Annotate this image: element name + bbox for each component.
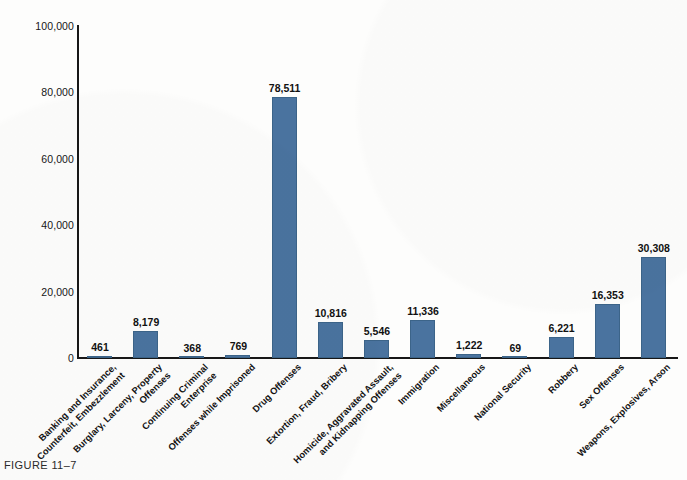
y-axis-tick-label: 20,000 bbox=[4, 286, 74, 298]
y-axis-labels: 020,00040,00060,00080,000100,000 bbox=[0, 0, 74, 480]
bar[interactable] bbox=[179, 356, 204, 358]
bar-value-label: 69 bbox=[485, 342, 545, 354]
plot-area: 4618,17936876978,51110,8165,54611,3361,2… bbox=[78, 26, 678, 358]
bar[interactable] bbox=[225, 355, 250, 358]
bar-slot: 8,179 bbox=[124, 26, 167, 358]
x-axis-category-label: Sex Offenses bbox=[577, 362, 627, 412]
bar-slot: 1,222 bbox=[447, 26, 490, 358]
bar-slot: 769 bbox=[216, 26, 259, 358]
bar[interactable] bbox=[641, 257, 666, 358]
bar[interactable] bbox=[272, 97, 297, 358]
x-axis-category-label: Robbery bbox=[546, 362, 581, 397]
bar-value-label: 11,336 bbox=[393, 305, 453, 317]
x-axis-category-label: Immigration bbox=[397, 362, 443, 408]
bar-value-label: 461 bbox=[70, 341, 130, 353]
x-axis-category-label: Weapons, Explosives, Arson bbox=[575, 362, 673, 460]
bar-slot: 16,353 bbox=[586, 26, 629, 358]
bar[interactable] bbox=[456, 354, 481, 358]
bar-value-label: 6,221 bbox=[532, 322, 592, 334]
y-axis-tick-label: 40,000 bbox=[4, 219, 74, 231]
bar[interactable] bbox=[410, 320, 435, 358]
x-axis-label-line: Robbery bbox=[546, 362, 581, 397]
bar-value-label: 16,353 bbox=[578, 289, 638, 301]
x-axis-category-label: Homicide, Aggravated Assault,and Kidnapp… bbox=[292, 362, 405, 475]
bar-value-label: 769 bbox=[208, 340, 268, 352]
figure-container: 020,00040,00060,00080,000100,000 4618,17… bbox=[0, 0, 687, 480]
x-axis-label-line: Weapons, Explosives, Arson bbox=[575, 362, 673, 460]
bar-value-label: 8,179 bbox=[116, 316, 176, 328]
bar-value-label: 5,546 bbox=[347, 325, 407, 337]
bar[interactable] bbox=[502, 356, 527, 358]
figure-caption: FIGURE 11–7 bbox=[4, 459, 77, 471]
bar-slot: 461 bbox=[78, 26, 121, 358]
bar-slot: 30,308 bbox=[632, 26, 675, 358]
bar[interactable] bbox=[318, 322, 343, 358]
bar-slot: 368 bbox=[170, 26, 213, 358]
bar-value-label: 78,511 bbox=[255, 82, 315, 94]
y-axis-tick-label: 60,000 bbox=[4, 153, 74, 165]
x-axis-label-line: Sex Offenses bbox=[577, 362, 627, 412]
bar-slot: 6,221 bbox=[540, 26, 583, 358]
bar-slot: 78,511 bbox=[263, 26, 306, 358]
bar-value-label: 30,308 bbox=[624, 242, 684, 254]
bar[interactable] bbox=[595, 304, 620, 358]
bar[interactable] bbox=[549, 337, 574, 358]
x-axis-label-line: Homicide, Aggravated Assault, bbox=[292, 362, 396, 466]
y-axis-tick-label: 0 bbox=[4, 352, 74, 364]
bar[interactable] bbox=[87, 356, 112, 358]
bar-slot: 10,816 bbox=[309, 26, 352, 358]
x-axis-labels: Banking and Insurance,Counterfeit, Embez… bbox=[78, 362, 678, 472]
bar-slot: 5,546 bbox=[355, 26, 398, 358]
bar-slot: 69 bbox=[493, 26, 536, 358]
bar-value-label: 10,816 bbox=[301, 307, 361, 319]
y-axis-tick-label: 80,000 bbox=[4, 86, 74, 98]
x-axis-label-line: and Kidnapping Offenses bbox=[300, 370, 404, 474]
y-axis-tick-label: 100,000 bbox=[4, 20, 74, 32]
x-axis-label-line: Immigration bbox=[397, 362, 443, 408]
bar[interactable] bbox=[133, 331, 158, 358]
bar[interactable] bbox=[364, 340, 389, 358]
bar-slot: 11,336 bbox=[401, 26, 444, 358]
